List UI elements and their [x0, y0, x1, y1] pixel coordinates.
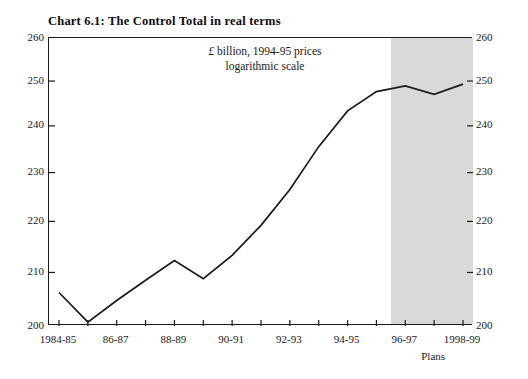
- y-axis-label-left-220: 220: [22, 215, 44, 226]
- x-axis-label-1998-99: 1998-99: [427, 334, 497, 345]
- annotation-line-2: logarithmic scale: [180, 59, 350, 74]
- y-axis-label-right-210: 210: [476, 266, 500, 277]
- y-axis-label-right-230: 230: [476, 166, 500, 177]
- y-axis-label-left-250: 250: [22, 75, 44, 86]
- y-axis-label-right-260: 260: [476, 32, 500, 43]
- annotation-line-1-text: billion, 1994-95 prices: [214, 45, 321, 57]
- plot-area: [48, 37, 472, 325]
- y-axis-label-left-200: 200: [22, 320, 44, 331]
- chart-title: Chart 6.1: The Control Total in real ter…: [48, 14, 281, 29]
- y-axis-label-right-240: 240: [476, 119, 500, 130]
- y-axis-label-right-200: 200: [476, 320, 500, 331]
- annotation-line-1: £ billion, 1994-95 prices: [180, 44, 350, 59]
- y-axis-label-left-240: 240: [22, 119, 44, 130]
- y-axis-label-left-260: 260: [22, 32, 44, 43]
- plans-caption: Plans: [413, 351, 453, 362]
- y-axis-label-right-250: 250: [476, 75, 500, 86]
- y-axis-label-left-230: 230: [22, 166, 44, 177]
- y-axis-label-right-220: 220: [476, 215, 500, 226]
- data-series-line: [59, 84, 463, 322]
- y-axis-label-left-210: 210: [22, 266, 44, 277]
- plot-svg: [49, 38, 473, 326]
- chart-container: Chart 6.1: The Control Total in real ter…: [0, 0, 528, 379]
- chart-annotation: £ billion, 1994-95 prices logarithmic sc…: [180, 44, 350, 74]
